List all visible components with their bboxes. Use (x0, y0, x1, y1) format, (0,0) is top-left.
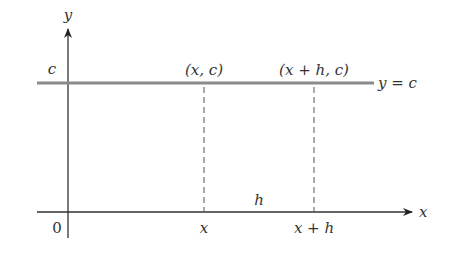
line-equation-label: y = c (377, 74, 418, 92)
point-x-plus-h-c-label: (x + h, c) (279, 61, 349, 79)
h-interval-label: h (254, 191, 264, 209)
origin-label: 0 (52, 219, 62, 237)
constant-function-diagram: y c (x, c) (x + h, c) y = c 0 x h x + h … (0, 0, 456, 257)
point-x-c-label: (x, c) (185, 61, 223, 79)
y-axis-label: y (63, 6, 73, 24)
c-intercept-label: c (48, 60, 57, 78)
x-tick-label: x (200, 219, 209, 237)
x-plus-h-tick-label: x + h (294, 219, 334, 237)
x-axis-label: x (419, 203, 428, 221)
